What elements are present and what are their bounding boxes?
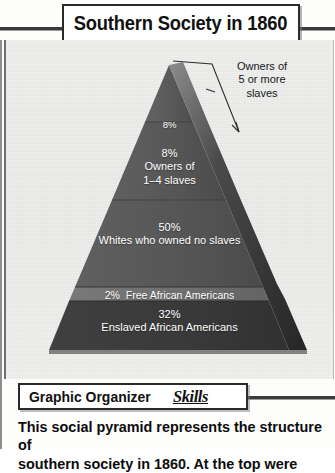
- caption-text: This social pyramid represents the struc…: [18, 418, 326, 473]
- skills-label: Skills: [173, 387, 208, 407]
- callout-line1: Owners of: [216, 60, 308, 73]
- page-left-edge: [0, 40, 2, 449]
- bracket-tick: [206, 89, 215, 92]
- callout-line2: 5 or more: [216, 73, 308, 86]
- pyramid-tier-free-african-americans: [69, 287, 269, 301]
- graphic-organizer-band: Graphic Organizer Skills: [0, 383, 335, 415]
- caption-line-1: This social pyramid represents the struc…: [18, 418, 326, 455]
- callout-line3: slaves: [216, 87, 308, 100]
- callout-text: Owners of 5 or more slaves: [216, 60, 308, 100]
- social-pyramid-chart: 8% 8% Owners of 1–4 slaves 50% Whites wh…: [6, 40, 333, 379]
- graphic-organizer-box: Graphic Organizer Skills: [18, 383, 248, 410]
- caption-line-2: southern society in 1860. At the top wer…: [18, 455, 326, 473]
- title-rule-left: [0, 27, 70, 31]
- chart-panel: 8% 8% Owners of 1–4 slaves 50% Whites wh…: [4, 40, 334, 379]
- graphic-organizer-label: Graphic Organizer: [29, 388, 151, 405]
- page-title: Southern Society in 1860: [74, 12, 287, 35]
- title-box: Southern Society in 1860: [62, 4, 300, 42]
- graphic-organizer-rule: [248, 396, 335, 400]
- pyramid-base-shadow: [49, 350, 307, 354]
- callout-group: Owners of 5 or more slaves: [6, 40, 333, 160]
- title-rule-right: [296, 27, 335, 31]
- pyramid-tier-enslaved-african-americans: [49, 301, 289, 350]
